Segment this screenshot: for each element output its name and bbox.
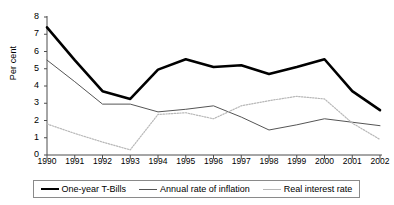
chart-container: Per cent 012345678 199019911992199319941…	[0, 0, 394, 205]
x-tick-label: 1991	[60, 157, 90, 166]
x-tick-label: 1994	[143, 157, 173, 166]
legend-label-real-rate: Real interest rate	[284, 184, 353, 194]
legend-label-inflation: Annual rate of inflation	[160, 184, 250, 194]
y-tick-label: 8	[25, 12, 39, 21]
x-tick-label: 1996	[199, 157, 229, 166]
x-tick-label: 1993	[115, 157, 145, 166]
legend-line-icon-t-bills	[41, 188, 59, 190]
y-tick-label: 5	[25, 64, 39, 73]
series-line-one-year-t-bills	[47, 27, 380, 110]
x-tick-label: 1998	[254, 157, 284, 166]
legend-line-icon-inflation	[139, 189, 157, 190]
y-tick-label: 6	[25, 47, 39, 56]
legend-line-icon-real-rate	[263, 189, 281, 190]
series-line-real-interest-rate	[47, 96, 380, 149]
line-chart-svg	[0, 0, 394, 170]
legend-label-t-bills: One-year T-Bills	[62, 184, 126, 194]
x-tick-label: 2001	[337, 157, 367, 166]
legend-item-real-interest-rate: Real interest rate	[263, 184, 353, 194]
x-tick-label: 1992	[88, 157, 118, 166]
x-tick-label: 1995	[171, 157, 201, 166]
y-tick-label: 4	[25, 81, 39, 90]
y-tick-label: 3	[25, 98, 39, 107]
x-tick-label: 1997	[226, 157, 256, 166]
x-tick-label: 1999	[282, 157, 312, 166]
y-axis-title: Per cent	[8, 28, 18, 98]
legend-item-one-year-t-bills: One-year T-Bills	[41, 184, 126, 194]
y-tick-label: 2	[25, 116, 39, 125]
plot-area	[0, 0, 394, 170]
legend-item-annual-rate-of-inflation: Annual rate of inflation	[139, 184, 250, 194]
y-tick-label: 7	[25, 29, 39, 38]
x-tick-label: 1990	[32, 157, 62, 166]
x-tick-label: 2000	[310, 157, 340, 166]
x-tick-label: 2002	[365, 157, 394, 166]
series-line-annual-rate-of-inflation	[47, 60, 380, 130]
chart-legend: One-year T-Bills Annual rate of inflatio…	[33, 180, 360, 198]
y-tick-label: 1	[25, 133, 39, 142]
